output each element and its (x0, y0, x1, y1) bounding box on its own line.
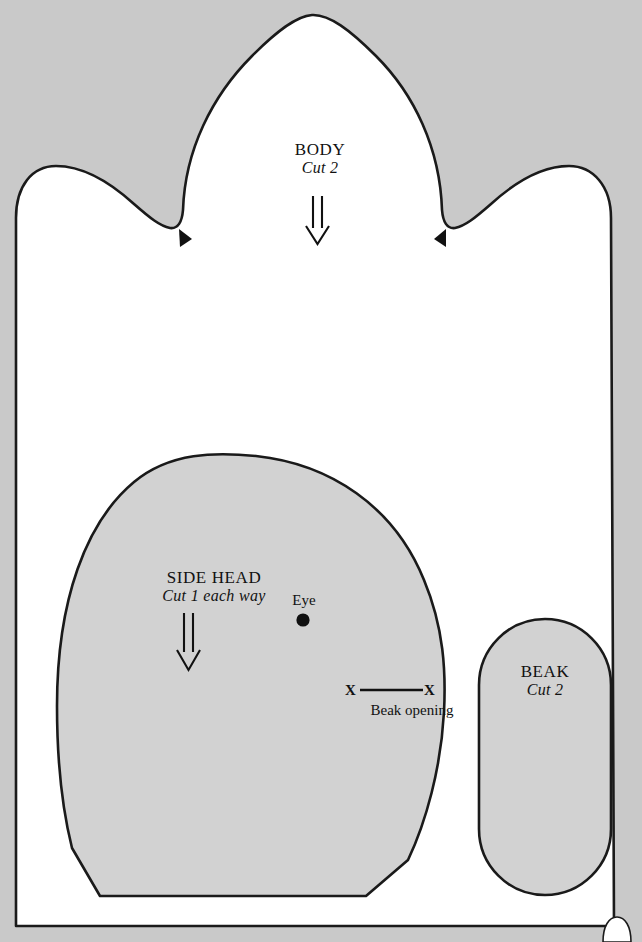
eye-dot-marker (296, 613, 309, 626)
beak-opening-x-left: X (345, 682, 356, 699)
side-head-piece-outline (57, 454, 445, 896)
eye-label: Eye (258, 592, 350, 609)
beak-piece-name: BEAK (490, 662, 600, 681)
beak-piece-outline (479, 619, 611, 895)
beak-piece-label: BEAK Cut 2 (490, 662, 600, 699)
body-piece-cut: Cut 2 (231, 159, 409, 177)
beak-piece-cut: Cut 2 (490, 681, 600, 699)
pattern-sheet-page: BODY Cut 2 SIDE HEAD Cut 1 each way BEAK… (0, 0, 642, 942)
side-head-piece-name: SIDE HEAD (104, 568, 324, 587)
body-piece-label: BODY Cut 2 (231, 140, 409, 177)
body-piece-name: BODY (231, 140, 409, 159)
beak-opening-label: Beak opening (330, 702, 494, 719)
beak-opening-x-right: X (424, 682, 435, 699)
